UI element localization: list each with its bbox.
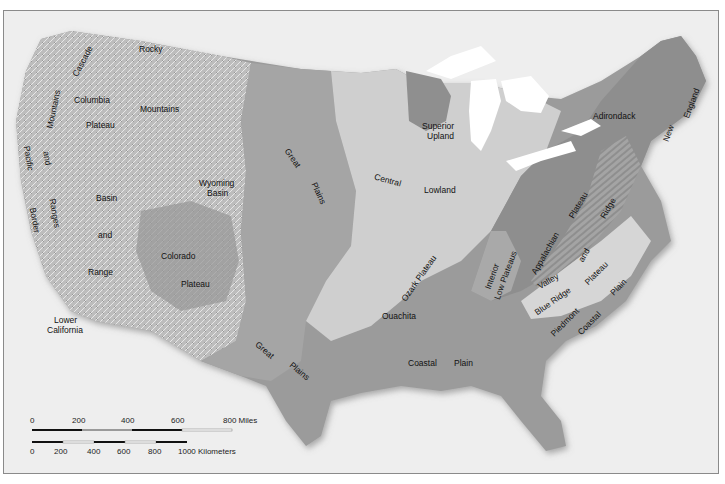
miles-tick-200: 200 bbox=[72, 416, 85, 425]
label-plain-gulf: Plain bbox=[454, 359, 473, 368]
label-range: Range bbox=[88, 268, 113, 277]
label-and-basin-range: and bbox=[98, 231, 112, 240]
label-colorado: Colorado bbox=[161, 252, 196, 261]
map-frame: Rocky Mountains Columbia Plateau Cascade… bbox=[3, 10, 719, 474]
km-tick-400: 400 bbox=[87, 447, 100, 456]
label-lower: Lower bbox=[54, 316, 77, 325]
label-wyoming: Wyoming bbox=[199, 179, 234, 188]
label-coastal-gulf: Coastal bbox=[408, 359, 437, 368]
label-basin: Basin bbox=[96, 194, 117, 203]
label-colorado-plateau: Plateau bbox=[181, 280, 210, 289]
scale-bar: 0 200 400 600 800 Miles 0 200 400 600 80… bbox=[30, 416, 270, 459]
km-tick-1000: 1000 Kilometers bbox=[178, 447, 236, 456]
km-tick-800: 800 bbox=[148, 447, 161, 456]
km-tick-labels: 0 200 400 600 800 1000 Kilometers bbox=[30, 447, 270, 459]
miles-tick-labels: 0 200 400 600 800 Miles bbox=[30, 416, 270, 428]
label-and-pacific-border: and bbox=[42, 151, 53, 166]
miles-tick-0: 0 bbox=[30, 416, 34, 425]
label-columbia: Columbia bbox=[74, 96, 110, 105]
scale-bars bbox=[30, 428, 240, 446]
label-ouachita: Ouachita bbox=[382, 312, 416, 321]
km-tick-600: 600 bbox=[117, 447, 130, 456]
label-upland: Upland bbox=[427, 132, 454, 141]
label-rocky: Rocky bbox=[139, 45, 163, 54]
km-tick-200: 200 bbox=[54, 447, 67, 456]
label-columbia-plateau: Plateau bbox=[86, 121, 115, 130]
label-superior: Superior bbox=[422, 122, 454, 131]
miles-tick-400: 400 bbox=[121, 416, 134, 425]
miles-tick-800: 800 Miles bbox=[223, 416, 257, 425]
km-tick-0: 0 bbox=[30, 447, 34, 456]
label-california: California bbox=[47, 326, 83, 335]
label-wyoming-basin: Basin bbox=[207, 189, 228, 198]
label-rocky-mountains: Mountains bbox=[140, 105, 179, 114]
label-lowland: Lowland bbox=[424, 186, 456, 195]
label-adirondack: Adirondack bbox=[593, 112, 636, 121]
miles-tick-600: 600 bbox=[171, 416, 184, 425]
us-relief-map bbox=[4, 11, 718, 473]
